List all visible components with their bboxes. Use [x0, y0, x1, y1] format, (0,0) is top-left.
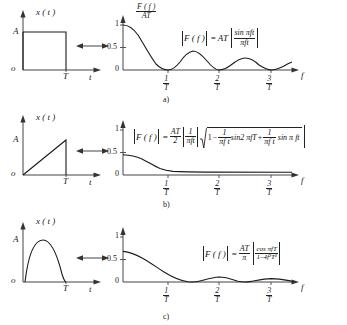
formula-c-coef-num: AT [239, 245, 250, 253]
formula-a-equals: = [209, 33, 218, 43]
rect-pulse-curve-a [23, 32, 66, 70]
spectrum-curve-b [123, 155, 292, 173]
figure-row-b: x ( t ) A T o t [0, 105, 347, 210]
spectrum-plot-a: F ( f ) AT 1 0.5 0 1 T 2 T [112, 0, 347, 105]
fourier-transform-pairs-figure: x ( t ) A T o t [0, 0, 347, 325]
formula-b-coef-num: AT [170, 128, 181, 136]
formula-c-den: 1–4f²T² [255, 253, 278, 261]
formula-c-lhs: F ( f ) [205, 249, 226, 259]
xtick-label-2overT-a: 2 T [214, 75, 220, 92]
spectrum-plot-b: 1 0.5 0 1 T 2 T 3 T f [112, 105, 347, 210]
formula-b-term2-den: πf t [263, 137, 275, 146]
xtick-label-2overT-b: 2 T [214, 180, 220, 197]
formula-a-sinc: sin πft πft [234, 29, 256, 46]
x-axis-arrow-spectrum-a [292, 67, 300, 72]
xtick-label-1overT-c: 1 T [163, 287, 169, 304]
formula-a-den: πft [234, 38, 256, 47]
ytick-label-0-b: 0 [115, 170, 119, 178]
caption-a: a) [163, 95, 169, 104]
tick1-num-b: 1 [163, 180, 169, 188]
formula-c-coef-den: π [239, 253, 250, 262]
tick3-den-c: T [266, 295, 272, 304]
xtick-label-3overT-a: 3 T [266, 75, 272, 92]
formula-b-equals: = [161, 132, 170, 142]
y-axis-arrow-spectrum-c [120, 227, 125, 235]
tick3-num-a: 3 [266, 75, 272, 83]
ylabel-x-of-t-c: x ( t ) [36, 217, 55, 226]
ytick-label-0p5-c: 0.5 [107, 255, 117, 263]
xtick-label-2overT-c: 2 T [214, 287, 220, 304]
y-axis-arrow-b [20, 115, 25, 123]
formula-b-term1-frac: 1 πf t [218, 129, 230, 146]
formula-a-AT: AT [218, 33, 228, 43]
half-sine-pulse-curve-c [25, 240, 66, 282]
formula-b: F ( f ) = AT 2 1 πft 1 [132, 125, 306, 148]
formula-b-inv-num: 1 [185, 128, 195, 136]
ytick-A-a: A [13, 27, 19, 36]
formula-b-term1-fn: sin2 πfT [231, 133, 257, 142]
formula-c-num: cos πfT [255, 246, 278, 253]
x-axis-arrow-spectrum-c [292, 279, 300, 284]
origin-label-c: o [11, 276, 16, 285]
ytick-A-c: A [13, 235, 19, 244]
xlabel-f-b: f [301, 176, 304, 185]
xtick-T-b: T [63, 177, 68, 186]
formula-b-radicand: 1 − 1 πf t sin2 πfT + 1 πf t sin π ft [207, 127, 302, 146]
tick1-den-b: T [163, 188, 169, 197]
spectrum-plot-c: 1 0.5 0 1 T 2 T 3 T f [112, 212, 347, 317]
caption-b: b) [163, 200, 170, 209]
formula-b-term1-num: 1 [218, 129, 230, 137]
formula-a: F ( f ) = AT sin πft πft [180, 28, 259, 48]
tick1-den-a: T [163, 83, 169, 92]
formula-b-term2-num: 1 [263, 129, 275, 137]
ylabel-x-of-t-b: x ( t ) [36, 113, 55, 122]
ramp-pulse-curve-b [23, 140, 66, 175]
tick1-num-a: 1 [163, 75, 169, 83]
xlabel-f-c: f [301, 283, 304, 292]
spectrum-svg-b [112, 105, 347, 210]
ylabel-denominator-a: AT [136, 11, 156, 20]
tick3-num-c: 3 [266, 287, 272, 295]
transform-arrow-a [74, 0, 112, 105]
formula-a-lhs: F ( f ) [184, 33, 205, 43]
radical-sign-icon-b [200, 127, 207, 149]
tick2-den-b: T [214, 188, 220, 197]
formula-b-radical: 1 − 1 πf t sin2 πfT + 1 πf t sin π ft [200, 127, 302, 146]
figure-row-a: x ( t ) A T o t [0, 0, 347, 105]
x-axis-arrow-spectrum-b [292, 172, 300, 177]
tick1-num-c: 1 [163, 287, 169, 295]
formula-b-inv: 1 πft [185, 128, 195, 145]
transform-arrow-c [74, 212, 112, 317]
formula-c-equals: = [230, 249, 239, 259]
ytick-label-1-a: 1 [115, 20, 119, 28]
figure-row-c: x ( t ) A T o t [0, 212, 347, 317]
xtick-label-3overT-c: 3 T [266, 287, 272, 304]
origin-label-b: o [11, 169, 16, 178]
ytick-label-1-c: 1 [115, 232, 119, 240]
tick3-num-b: 3 [266, 180, 272, 188]
formula-c: F ( f ) = AT π cos πfT 1–4f²T² [201, 242, 282, 265]
ytick-label-0-c: 0 [115, 277, 119, 285]
ytick-label-0-a: 0 [115, 65, 119, 73]
formula-b-coef: AT 2 [170, 128, 181, 145]
formula-b-term1-den: πf t [218, 137, 230, 146]
formula-b-term2-frac: 1 πf t [263, 129, 275, 146]
formula-b-inv-den: πft [185, 136, 195, 145]
ytick-A-b: A [13, 135, 19, 144]
tick2-num-c: 2 [214, 287, 220, 295]
ytick-label-1-b: 1 [115, 125, 119, 133]
formula-c-coef: AT π [239, 245, 250, 262]
y-axis-arrow-spectrum-b [120, 120, 125, 128]
ylabel-spectrum-a: F ( f ) AT [136, 3, 156, 20]
xtick-label-1overT-a: 1 T [163, 75, 169, 92]
xtick-T-a: T [63, 72, 68, 81]
xtick-label-1overT-b: 1 T [163, 180, 169, 197]
caption-c: c) [163, 312, 169, 321]
tick1-den-c: T [163, 295, 169, 304]
tick3-den-b: T [266, 188, 272, 197]
origin-label-a: o [11, 64, 16, 73]
formula-a-num: sin πft [234, 29, 256, 37]
tick2-den-c: T [214, 295, 220, 304]
xtick-label-3overT-b: 3 T [266, 180, 272, 197]
y-axis-arrow-c [20, 222, 25, 230]
